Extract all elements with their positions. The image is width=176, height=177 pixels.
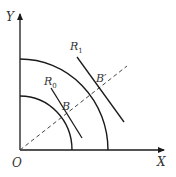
y-axis-label: Y [6, 10, 15, 24]
point-b-prime-label: B′ [95, 72, 107, 85]
origin-label: O [12, 156, 22, 170]
curve-r1-label: R1 [69, 40, 83, 55]
curve-r0-label: R0 [43, 75, 57, 90]
point-b-label: B [61, 100, 70, 113]
tangent-line-r0 [51, 88, 82, 138]
x-axis-label: X [156, 155, 166, 169]
diagram-canvas: Y X O R0 R1 B B′ [0, 0, 176, 177]
